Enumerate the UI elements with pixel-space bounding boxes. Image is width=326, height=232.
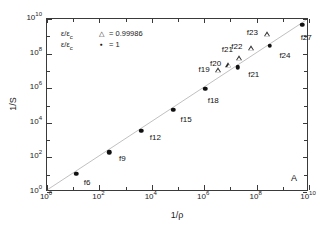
- x-tick-label-exponent: 10: [309, 190, 316, 196]
- x-tick-label-exponent: 8: [258, 190, 261, 196]
- x-tick: [73, 19, 74, 22]
- y-tick: [303, 19, 307, 20]
- x-tick-label-exponent: 2: [101, 190, 104, 196]
- chart-figure: 1/S 1/ρ 1001021041061081010 100102104106…: [0, 0, 326, 232]
- x-tick: [126, 19, 127, 22]
- y-tick: [47, 140, 50, 141]
- x-tick: [152, 19, 153, 23]
- y-tick-label-exponent: 8: [39, 46, 42, 52]
- data-point-circle: [203, 86, 208, 91]
- x-tick-label: 102: [92, 193, 104, 201]
- y-tick: [47, 36, 50, 37]
- x-tick-label-base: 10: [92, 192, 101, 201]
- legend: ε/εc△= 0.99986ε/εc●= 1: [61, 28, 143, 50]
- y-tick-label: 106: [30, 83, 42, 91]
- y-tick-label: 104: [30, 118, 42, 126]
- data-point-label: f27: [301, 34, 312, 42]
- y-tick-label: 1010: [26, 14, 42, 22]
- y-tick-label-base: 10: [30, 186, 39, 195]
- x-tick-label-exponent: 6: [206, 190, 209, 196]
- y-tick: [47, 123, 52, 124]
- legend-symbol-text: ε/εc: [61, 28, 95, 39]
- x-tick: [47, 185, 48, 190]
- data-point-triangle: [264, 32, 270, 37]
- y-tick-label-exponent: 0: [39, 184, 42, 190]
- x-tick: [283, 187, 284, 190]
- x-tick: [230, 19, 231, 22]
- data-point-circle: [268, 44, 273, 49]
- y-tick: [47, 192, 52, 193]
- y-tick-label: 100: [30, 187, 42, 195]
- y-tick: [47, 88, 52, 89]
- y-tick: [303, 123, 307, 124]
- y-tick-label: 108: [30, 49, 42, 57]
- data-point-label: f15: [180, 116, 191, 124]
- x-tick-label: 104: [145, 193, 157, 201]
- y-tick: [47, 19, 52, 20]
- x-tick-label-exponent: 4: [154, 190, 157, 196]
- y-tick: [47, 175, 50, 176]
- x-tick: [126, 187, 127, 190]
- data-point-label: f19: [199, 66, 210, 74]
- legend-entry: ε/εc●= 1: [61, 39, 143, 50]
- x-tick: [257, 19, 258, 23]
- data-point-triangle: [226, 62, 232, 67]
- y-tick: [304, 106, 307, 107]
- x-tick-label-base: 10: [145, 192, 154, 201]
- x-tick-label-base: 10: [197, 192, 206, 201]
- x-tick: [178, 187, 179, 190]
- x-tick: [309, 185, 310, 190]
- data-point-circle: [235, 65, 240, 70]
- data-point-label: f20: [210, 60, 221, 68]
- data-point-circle: [107, 150, 112, 155]
- x-tick: [178, 19, 179, 22]
- legend-symbol-text: ε/εc: [61, 39, 95, 50]
- legend-marker-triangle-icon: △: [95, 28, 107, 39]
- y-tick: [304, 175, 307, 176]
- data-point-label: f21: [248, 71, 259, 79]
- x-tick: [73, 187, 74, 190]
- x-tick: [99, 19, 100, 23]
- y-tick-label-base: 10: [30, 151, 39, 160]
- y-axis-title: 1/S: [8, 97, 18, 111]
- x-tick: [230, 187, 231, 190]
- y-tick: [303, 192, 307, 193]
- legend-entry: ε/εc△= 0.99986: [61, 28, 143, 39]
- y-tick-label-base: 10: [30, 48, 39, 57]
- data-point-label: f18: [208, 97, 219, 105]
- y-tick-label-base: 10: [30, 117, 39, 126]
- y-tick-label-exponent: 4: [39, 115, 42, 121]
- x-tick-label: 106: [197, 193, 209, 201]
- legend-marker-circle-icon: ●: [95, 39, 107, 50]
- x-tick: [309, 19, 310, 23]
- legend-value: = 1: [107, 39, 120, 50]
- data-point-circle: [74, 172, 79, 177]
- y-tick-label: 102: [30, 152, 42, 160]
- data-point-label: f9: [119, 155, 126, 163]
- legend-symbol-subscript: c: [70, 45, 73, 51]
- y-tick: [303, 157, 307, 158]
- data-point-label: f24: [279, 52, 290, 60]
- data-point-label: f23: [247, 29, 258, 37]
- data-point-label: f12: [150, 134, 161, 142]
- x-tick-label-base: 10: [300, 192, 309, 201]
- data-point-triangle: [248, 45, 254, 50]
- y-tick-label-exponent: 10: [35, 11, 42, 17]
- y-tick: [47, 71, 50, 72]
- y-tick: [304, 36, 307, 37]
- data-point-triangle: [236, 55, 242, 60]
- y-tick-label-base: 10: [30, 82, 39, 91]
- data-point-circle: [300, 22, 305, 27]
- x-tick-label: 108: [249, 193, 261, 201]
- x-tick: [204, 185, 205, 190]
- x-tick: [99, 185, 100, 190]
- x-axis-title: 1/ρ: [171, 210, 184, 220]
- y-tick: [304, 71, 307, 72]
- legend-value: = 0.99986: [107, 28, 143, 39]
- data-point-label: f6: [84, 179, 91, 187]
- data-point-triangle: [215, 67, 221, 72]
- y-tick: [303, 88, 307, 89]
- x-tick-label-base: 10: [249, 192, 258, 201]
- y-tick: [304, 140, 307, 141]
- x-tick-label: 1010: [300, 193, 316, 201]
